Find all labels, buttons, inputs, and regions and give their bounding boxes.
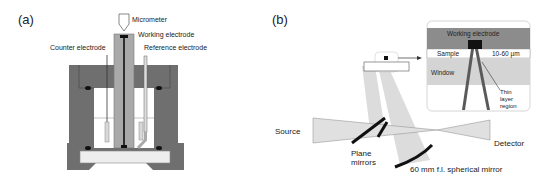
reference-electrode	[144, 56, 147, 132]
reference-electrode-label: Reference electrode	[144, 44, 207, 51]
inset-thickness-label: 10-60 µm	[492, 50, 520, 58]
panel-a: (a) Micrometer Working electrode Cou	[18, 12, 207, 170]
o-ring	[85, 146, 91, 150]
spherical-mirror-label: 60 mm f.l. spherical mirror	[410, 165, 503, 174]
plane-mirrors-label-2: mirrors	[351, 158, 376, 167]
o-ring	[156, 146, 162, 150]
window-plate	[80, 151, 170, 163]
inset-thin-label: Thin	[500, 89, 512, 95]
working-electrode-tip	[468, 40, 482, 49]
window-small	[364, 62, 409, 71]
inset-sample-label: Sample	[437, 50, 459, 58]
inset-working-electrode-label: Working electrode	[447, 30, 500, 38]
o-ring	[85, 86, 91, 90]
inset-layer-label: layer	[500, 96, 513, 102]
working-electrode-label: Working electrode	[138, 31, 194, 39]
source-label: Source	[275, 127, 301, 136]
inset-window-label: Window	[431, 69, 454, 76]
plane-mirrors-label-1: Plane	[351, 149, 372, 158]
panel-b-label: (b)	[272, 12, 288, 27]
inset-region-label: region	[500, 103, 517, 109]
figure-canvas: (a) Micrometer Working electrode Cou	[0, 0, 547, 182]
detector-label: Detector	[494, 139, 525, 148]
inset-detail: Working electrode Sample 10-60 µm Window…	[427, 21, 530, 111]
o-ring	[156, 86, 162, 90]
panel-b: (b) Working electrode Sample 10-60 µm	[272, 12, 530, 174]
beam-out	[378, 66, 430, 165]
panel-a-label: (a)	[18, 12, 34, 27]
counter-electrode-label: Counter electrode	[50, 44, 106, 51]
micrometer-icon	[119, 14, 129, 31]
micrometer-label: Micrometer	[132, 16, 168, 23]
